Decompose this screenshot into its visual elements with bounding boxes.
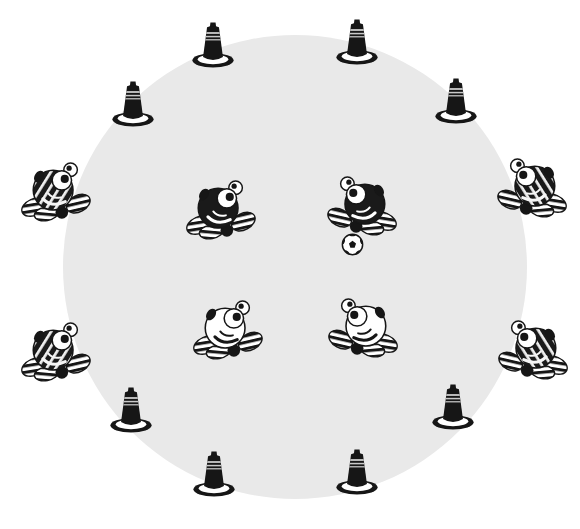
cone-upper-right bbox=[434, 77, 478, 125]
dark-bug-right bbox=[324, 174, 398, 238]
striped-bug-right-lower bbox=[495, 318, 569, 382]
white-bug-left bbox=[192, 298, 266, 362]
cone-lower-right bbox=[431, 383, 475, 431]
striped-bug-left-lower bbox=[20, 320, 94, 384]
cone-lower-left bbox=[109, 386, 153, 434]
striped-bug-right-upper bbox=[494, 156, 568, 220]
white-bug-right bbox=[325, 296, 399, 360]
soccer-ball bbox=[341, 233, 364, 256]
striped-bug-left-upper bbox=[20, 160, 94, 224]
cone-upper-left bbox=[111, 80, 155, 128]
cone-top-right bbox=[335, 18, 379, 66]
cone-top-left bbox=[191, 21, 235, 69]
cone-bottom-left bbox=[192, 450, 236, 498]
dark-bug-left bbox=[185, 178, 259, 242]
cone-bottom-right bbox=[335, 448, 379, 496]
illustration-canvas bbox=[0, 0, 580, 529]
